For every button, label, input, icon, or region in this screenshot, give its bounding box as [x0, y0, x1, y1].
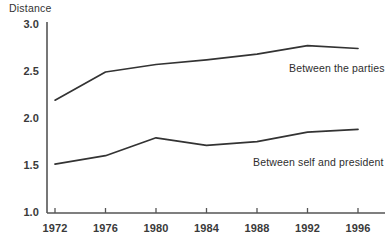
- series-label-between-self-and-president: Between self and president: [253, 156, 384, 168]
- y-tick-label: 2.5: [7, 65, 39, 77]
- x-tick-label: 1996: [336, 222, 380, 234]
- x-tick-label: 1972: [33, 222, 77, 234]
- x-tick-label: 1976: [84, 222, 128, 234]
- x-tick-label: 1984: [185, 222, 229, 234]
- line-chart-figure: Distance 1.01.52.02.53.0 197219761980198…: [0, 0, 389, 247]
- x-tick-label: 1980: [134, 222, 178, 234]
- y-tick-label: 1.0: [7, 206, 39, 218]
- series-label-between-the-parties: Between the parties: [289, 62, 385, 74]
- axis-lines: [47, 22, 385, 213]
- y-tick-label: 2.0: [7, 112, 39, 124]
- y-tick-label: 1.5: [7, 159, 39, 171]
- y-tick-label: 3.0: [7, 18, 39, 30]
- x-tick-label: 1988: [235, 222, 279, 234]
- x-tick-label: 1992: [286, 222, 330, 234]
- plot-area: [0, 0, 389, 247]
